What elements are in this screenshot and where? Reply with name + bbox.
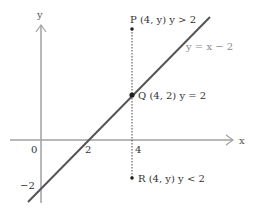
point-q bbox=[129, 92, 134, 97]
coordinate-diagram: y x 0 2 4 −2 P (4, y) y > 2 Q (4, 2) y =… bbox=[0, 0, 258, 210]
tick-x-4: 4 bbox=[135, 144, 141, 155]
line-equation-label: y = x − 2 bbox=[185, 41, 233, 52]
point-r-label: R (4, y) y < 2 bbox=[138, 173, 205, 184]
origin-label: 0 bbox=[31, 144, 37, 155]
x-axis-label: x bbox=[239, 135, 245, 146]
point-p-label: P (4, y) y > 2 bbox=[130, 14, 196, 25]
y-axis-label: y bbox=[36, 9, 43, 20]
point-r bbox=[130, 176, 134, 180]
point-p bbox=[130, 27, 134, 31]
tick-x-2: 2 bbox=[85, 144, 91, 155]
point-q-label: Q (4, 2) y = 2 bbox=[138, 90, 206, 101]
tick-y-neg2: −2 bbox=[20, 180, 35, 191]
